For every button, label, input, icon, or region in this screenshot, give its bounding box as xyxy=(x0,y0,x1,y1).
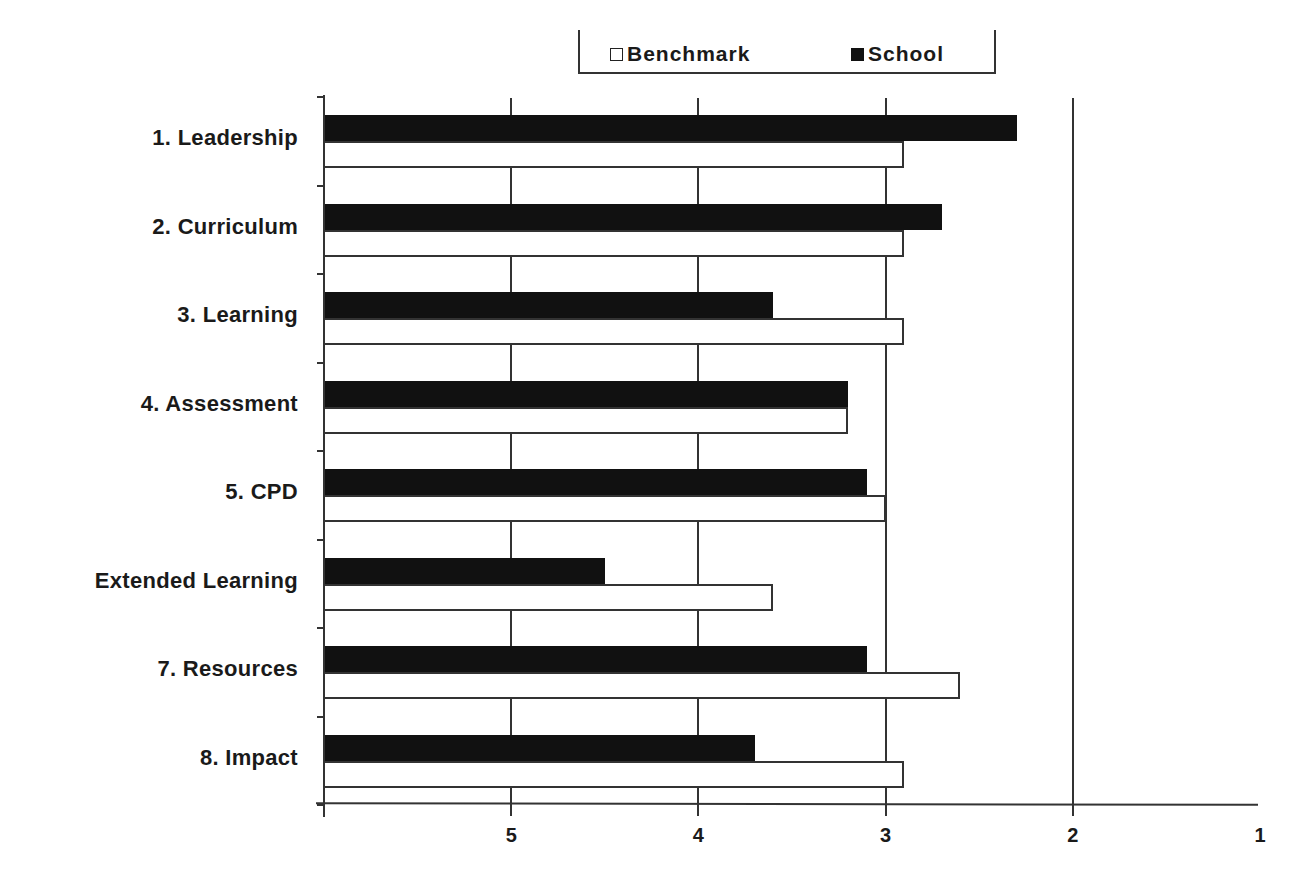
bar-school xyxy=(324,735,755,761)
bar-school xyxy=(324,204,942,230)
x-tick-label: 2 xyxy=(1063,824,1083,847)
bar-school xyxy=(324,469,867,495)
category-label: 1. Leadership xyxy=(152,125,298,151)
legend-item-benchmark: Benchmark xyxy=(610,42,750,66)
benchmark-swatch-icon xyxy=(610,48,623,61)
bar-benchmark xyxy=(324,584,773,611)
x-tick-label: 3 xyxy=(876,824,896,847)
bar-benchmark xyxy=(324,761,904,788)
x-tick-label: 1 xyxy=(1250,824,1270,847)
y-axis xyxy=(323,95,325,817)
category-label: 7. Resources xyxy=(157,656,298,682)
category-label: 5. CPD xyxy=(225,479,298,505)
bar-benchmark xyxy=(324,407,848,434)
category-label: 2. Curriculum xyxy=(152,214,298,240)
legend-item-school: School xyxy=(851,42,944,66)
category-label: 4. Assessment xyxy=(141,391,298,417)
chart-legend: Benchmark School xyxy=(578,30,996,74)
category-label: 3. Learning xyxy=(177,302,298,328)
bar-school xyxy=(324,115,1017,141)
school-swatch-icon xyxy=(851,48,864,61)
bar-benchmark xyxy=(324,318,904,345)
bar-benchmark xyxy=(324,672,960,699)
category-label: 8. Impact xyxy=(200,745,298,771)
bar-school xyxy=(324,381,848,407)
bar-school xyxy=(324,646,867,672)
x-tick-label: 4 xyxy=(688,824,708,847)
bar-benchmark xyxy=(324,230,904,257)
category-label: Extended Learning xyxy=(95,568,298,594)
legend-label-benchmark: Benchmark xyxy=(627,42,750,66)
legend-label-school: School xyxy=(868,42,944,66)
bar-benchmark xyxy=(324,141,904,168)
bar-school xyxy=(324,292,773,318)
bar-benchmark xyxy=(324,495,886,522)
gridline-2 xyxy=(1072,98,1074,816)
bar-chart: Benchmark School 1. Leadership2. Curricu… xyxy=(0,0,1311,894)
bar-school xyxy=(324,558,605,584)
x-tick-label: 5 xyxy=(501,824,521,847)
x-axis xyxy=(316,802,1258,806)
